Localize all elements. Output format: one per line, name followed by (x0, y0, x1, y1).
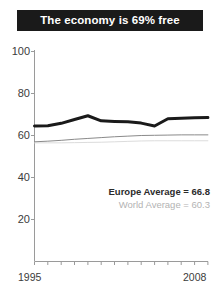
plot-area: 100 80 60 40 20 1995 2008 Europe Average… (0, 0, 219, 300)
chart-figure: The economy is 69% free (0, 0, 219, 300)
x-axis-ticks (35, 262, 208, 266)
legend-item-europe-average: Europe Average = 66.8 (100, 185, 210, 198)
y-tick-40: 40 (0, 172, 30, 183)
chart-legend: Europe Average = 66.8 World Average = 60… (100, 185, 210, 211)
legend-item-world-average: World Average = 60.3 (100, 198, 210, 211)
chart-svg (0, 0, 219, 300)
y-tick-label: 20 (2, 214, 30, 225)
y-axis-ticks (31, 52, 35, 220)
y-tick-60: 60 (0, 130, 30, 141)
x-tick-label-start: 1995 (18, 272, 41, 283)
series-line-europe-average (35, 116, 208, 126)
y-tick-label: 60 (2, 130, 30, 141)
y-tick-label: 80 (2, 88, 30, 99)
y-tick-80: 80 (0, 88, 30, 99)
y-tick-label: 100 (2, 46, 30, 57)
y-tick-20: 20 (0, 214, 30, 225)
series-line-lower-band (35, 141, 208, 143)
x-tick-label-end: 2008 (183, 272, 206, 283)
y-tick-label: 40 (2, 172, 30, 183)
y-tick-100: 100 (0, 46, 30, 57)
